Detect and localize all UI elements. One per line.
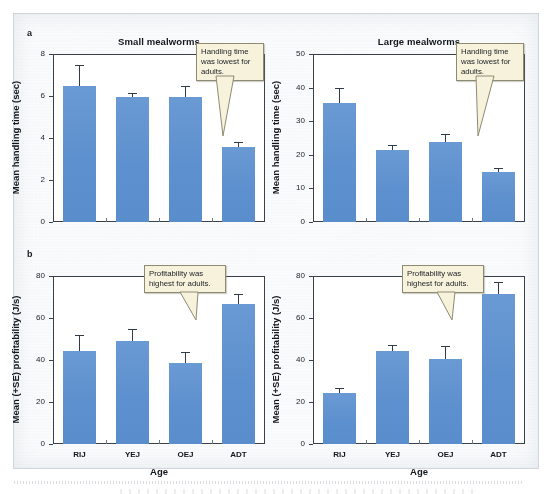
bar <box>323 393 356 444</box>
x-tick-label-rij: RIJ <box>315 450 365 459</box>
bar <box>376 351 409 444</box>
y-tick-mark <box>309 276 313 277</box>
error-bar <box>498 282 499 294</box>
y-tick-mark <box>309 318 313 319</box>
x-tick-label-yej: YEJ <box>368 450 418 459</box>
error-bar-cap <box>494 282 504 283</box>
x-tick-label-oej: OEJ <box>421 450 471 459</box>
page-bottom-smudge <box>120 489 480 494</box>
y-tick-label: 20 <box>279 397 305 406</box>
y-tick-mark <box>309 444 313 445</box>
y-tick-label: 40 <box>279 355 305 364</box>
error-bar-cap <box>335 388 345 389</box>
page-dotted-rule <box>14 481 522 484</box>
bar <box>482 294 515 444</box>
error-bar <box>445 346 446 359</box>
chart-b-large: Mean (+SE) profitability (J/s)020406080R… <box>0 0 552 494</box>
x-tick-mark <box>419 440 420 444</box>
error-bar-cap <box>388 345 398 346</box>
y-tick-mark <box>309 402 313 403</box>
annotation-callout: Profitability was highest for adults. <box>402 265 484 293</box>
x-axis-label: Age <box>313 466 525 477</box>
x-tick-mark <box>366 440 367 444</box>
x-tick-label-adt: ADT <box>474 450 524 459</box>
y-tick-label: 0 <box>279 439 305 448</box>
x-tick-mark <box>472 440 473 444</box>
y-tick-mark <box>309 360 313 361</box>
y-tick-label: 60 <box>279 313 305 322</box>
bar <box>429 359 462 444</box>
y-tick-label: 80 <box>279 271 305 280</box>
error-bar-cap <box>441 346 451 347</box>
